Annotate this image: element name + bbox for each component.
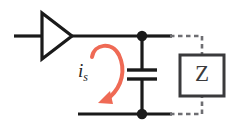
current-arrow-icon (92, 46, 122, 104)
current-arrow-head (98, 91, 113, 104)
impedance-label: Z (188, 60, 216, 88)
wire-group (14, 36, 172, 114)
current-symbol-label: is (78, 60, 88, 88)
current-symbol-subscript: s (83, 70, 88, 84)
dashed-wire-top (170, 36, 202, 55)
bottom-junction-dot (137, 109, 147, 119)
top-junction-dot (137, 31, 147, 41)
current-arrow-curve (92, 46, 122, 97)
capacitor-icon (127, 70, 157, 79)
dashed-wire-bottom (170, 95, 202, 114)
amplifier-triangle-icon (42, 13, 72, 59)
circuit-figure: Z is (0, 0, 238, 139)
